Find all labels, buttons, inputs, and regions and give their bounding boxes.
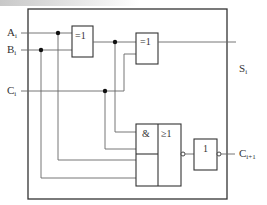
- not-inversion-bubble: [217, 152, 221, 156]
- wire-xor1-to-aoi: [115, 42, 136, 132]
- circuit-diagram: [0, 0, 267, 205]
- wire-a-to-aoi: [58, 33, 136, 160]
- aoi-inversion-bubble: [181, 152, 185, 156]
- junction-xor1: [113, 40, 117, 44]
- wire-b-to-aoi: [41, 50, 136, 178]
- junction-b: [39, 48, 43, 52]
- junction-c: [103, 89, 107, 93]
- aoi-and-symbol: &: [142, 129, 150, 139]
- aoi-or-symbol: ≥1: [161, 129, 172, 139]
- junction-a: [56, 31, 60, 35]
- output-label-carry: Ci+1: [239, 148, 256, 161]
- not-symbol: 1: [203, 144, 208, 154]
- input-label-a: Ai: [7, 27, 17, 40]
- output-label-sum: Si: [239, 63, 247, 76]
- wire-c-to-xor2: [124, 54, 136, 91]
- input-label-c: Ci: [7, 85, 16, 98]
- xor2-symbol: =1: [140, 37, 151, 47]
- wire-c-to-aoi: [105, 91, 136, 149]
- input-label-b: Bi: [7, 44, 16, 57]
- xor1-symbol: =1: [75, 31, 86, 41]
